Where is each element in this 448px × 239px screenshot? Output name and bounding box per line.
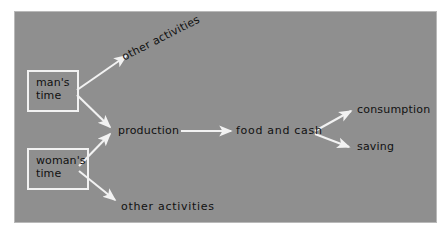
node-mans-time-line2: time	[36, 89, 71, 102]
node-consumption[interactable]: consumption	[357, 104, 430, 116]
node-mans-time[interactable]: man's time	[27, 70, 79, 112]
node-womans-time-line2: time	[36, 167, 81, 180]
node-production[interactable]: production	[118, 125, 179, 137]
diagram-figure: man's time woman's time production food …	[0, 0, 448, 239]
node-food-and-cash[interactable]: food and cash	[236, 125, 323, 137]
node-other-activities-bottom[interactable]: other activities	[121, 201, 215, 213]
node-womans-time[interactable]: woman's time	[27, 148, 89, 190]
node-saving[interactable]: saving	[357, 141, 394, 153]
diagram-panel	[15, 12, 436, 222]
node-womans-time-line1: woman's	[36, 154, 81, 167]
node-mans-time-line1: man's	[36, 76, 71, 89]
